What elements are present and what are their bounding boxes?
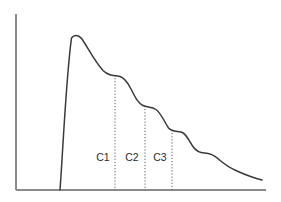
band-label-c1: C1: [96, 151, 110, 163]
decay-chart-svg: C1 C2 C3: [0, 0, 281, 202]
chart-figure: C1 C2 C3: [0, 0, 281, 202]
band-label-c3: C3: [153, 151, 167, 163]
band-label-c2: C2: [125, 151, 139, 163]
decay-curve: [60, 35, 262, 190]
